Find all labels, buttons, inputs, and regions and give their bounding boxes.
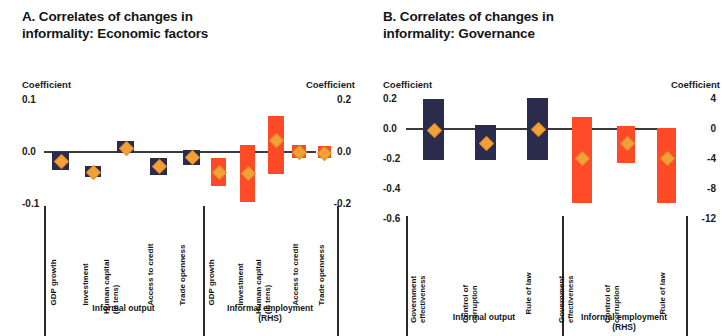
- panel-b-group-label-informal-output: Informal output: [406, 312, 562, 322]
- panel-b-right-axis-unit: Coefficient: [671, 79, 720, 90]
- panel-b-category-rule-of-law-employment: Rule of law: [659, 272, 668, 314]
- panel-b-group-label-informal-employment: Informal employment (RHS): [562, 312, 686, 332]
- panel-b-right-tick-2: -4: [707, 154, 716, 164]
- panel-b-right-tick-0: 4: [710, 94, 716, 104]
- panel-b-right-tick-1: 0: [710, 124, 716, 134]
- panel-a-right-tick-1: 0.0: [337, 147, 351, 157]
- panel-b-plot: Coefficient Coefficient 0.2 0.0 -0.2 -0.…: [361, 0, 722, 336]
- panel-b-right-tick-3: -8: [707, 184, 716, 194]
- panel-a-right-axis-unit: Coefficient: [306, 79, 355, 90]
- panel-b-left-tick-3: -0.4: [383, 184, 400, 194]
- panel-b-category-rule-of-law-output: Rule of law: [525, 272, 534, 314]
- panel-b-right-tick-4: -12: [702, 214, 716, 224]
- panel-b-left-axis-unit: Coefficient: [383, 79, 432, 90]
- panel-a-right-tick-0: 0.2: [337, 95, 351, 105]
- panel-a-category-investment-employment: Investment: [237, 263, 246, 305]
- panel-a-category-access-to-credit-output: Access to credit: [147, 244, 156, 306]
- panel-a-left-tick-2: -0.1: [22, 199, 39, 209]
- panel-a-category-trade-openness-employment: Trade openness: [318, 245, 327, 306]
- panel-a-left-tick-1: 0.0: [22, 147, 36, 157]
- panel-b-left-tick-1: 0.0: [383, 124, 397, 134]
- panel-b-left-tick-4: -0.6: [383, 214, 400, 224]
- panel-a-group-rule-right: [337, 206, 339, 336]
- panel-a-category-gdp-growth-employment: GDP growth: [208, 259, 217, 305]
- panel-a-group-label-informal-output: Informal output: [44, 303, 203, 313]
- panel-a-economic-factors: A. Correlates of changes in informality:…: [0, 0, 361, 336]
- panel-a-group-label-informal-employment: Informal employment (RHS): [203, 303, 337, 323]
- informality-correlates-figure: A. Correlates of changes in informality:…: [0, 0, 722, 336]
- panel-b-group-rule-right: [686, 216, 688, 336]
- panel-a-category-access-to-credit-employment: Access to credit: [292, 244, 301, 306]
- panel-a-group-rule-left: [44, 206, 46, 336]
- panel-b-left-tick-0: 0.2: [383, 94, 397, 104]
- panel-a-category-investment-output: Investment: [82, 263, 91, 305]
- panel-a-category-trade-openness-output: Trade openness: [179, 245, 188, 306]
- panel-b-governance: B. Correlates of changes in informality:…: [361, 0, 722, 336]
- panel-a-category-gdp-growth-output: GDP growth: [50, 259, 59, 305]
- panel-a-left-axis-unit: Coefficient: [22, 79, 71, 90]
- panel-a-left-tick-0: 0.1: [22, 95, 36, 105]
- panel-b-left-tick-2: -0.2: [383, 154, 400, 164]
- panel-a-plot: Coefficient Coefficient 0.1 0.0 -0.1 0.2…: [0, 0, 361, 336]
